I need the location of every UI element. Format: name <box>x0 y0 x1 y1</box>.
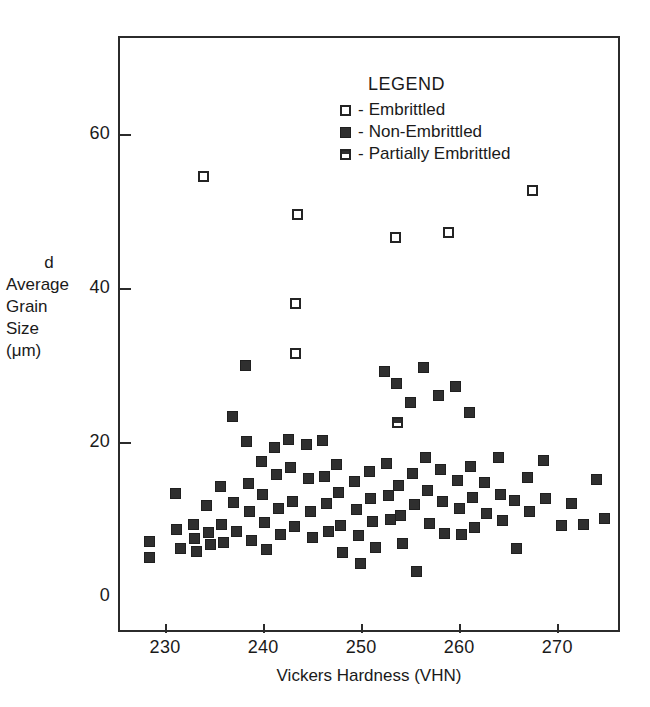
y-axis-tick <box>120 442 131 444</box>
x-axis-tick-label: 250 <box>326 637 396 658</box>
legend-dash-0: - <box>358 100 364 120</box>
half-filled-square-marker-icon <box>340 149 351 160</box>
y-axis-tick <box>120 134 131 136</box>
x-axis-tick <box>557 624 559 633</box>
open-square-marker-icon <box>340 105 351 116</box>
legend-label-partially-embrittled: Partially Embrittled <box>369 144 511 164</box>
x-axis-tick-label: 240 <box>228 637 298 658</box>
x-axis-tick <box>459 624 461 633</box>
y-axis-title: d Average Grain Size (μm) <box>6 252 106 362</box>
legend-label-non-embrittled: Non-Embrittled <box>369 122 482 142</box>
y-axis-title-line-4: (μm) <box>6 340 106 362</box>
x-axis-tick <box>263 624 265 633</box>
filled-square-marker-icon <box>340 127 351 138</box>
y-axis-title-line-2: Grain <box>6 296 106 318</box>
scatter-chart-figure: 2302402502602700204060 Vickers Hardness … <box>0 0 650 707</box>
x-axis-tick <box>361 624 363 633</box>
x-axis-tick-label: 270 <box>522 637 592 658</box>
legend: LEGEND - Embrittled - Non-Embrittled - P… <box>340 74 570 165</box>
legend-entry-non-embrittled: - Non-Embrittled <box>340 121 570 143</box>
y-axis-tick-label: 20 <box>66 431 110 452</box>
legend-entry-embrittled: - Embrittled <box>340 99 570 121</box>
y-axis-tick-label: 60 <box>66 123 110 144</box>
legend-dash-1: - <box>358 122 364 142</box>
y-axis-title-line-0: d <box>6 252 106 274</box>
x-axis-tick-label: 230 <box>130 637 200 658</box>
y-axis-tick <box>120 288 131 290</box>
legend-label-embrittled: Embrittled <box>369 100 446 120</box>
x-axis-title: Vickers Hardness (VHN) <box>118 666 620 686</box>
x-axis-tick-label: 260 <box>424 637 494 658</box>
legend-dash-2: - <box>358 144 364 164</box>
y-axis-title-line-3: Size <box>6 318 106 340</box>
legend-entry-partially-embrittled: - Partially Embrittled <box>340 143 570 165</box>
legend-title: LEGEND <box>368 74 570 95</box>
x-axis-tick <box>165 624 167 633</box>
y-axis-tick-label: 0 <box>66 585 110 606</box>
y-axis-title-line-1: Average <box>6 274 106 296</box>
